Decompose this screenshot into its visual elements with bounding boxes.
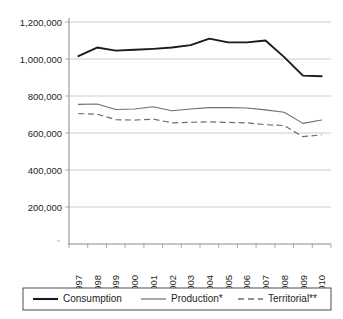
series-line-production (78, 104, 321, 123)
legend-label-consumption: Consumption (63, 293, 122, 304)
x-tick-marks (69, 244, 331, 248)
legend-label-territorial: Territorial** (268, 293, 317, 304)
y-axis-labels: 1,200,000 1,000,000 800,000 600,000 400,… (20, 17, 62, 213)
legend-label-production: Production* (171, 293, 223, 304)
y-tick-label-600000: 600,000 (28, 128, 62, 139)
chart-legend: Consumption Production* Territorial** (23, 288, 331, 310)
y-tick-label-200000: 200,000 (28, 202, 62, 213)
chart-container: 1,200,000 1,000,000 800,000 600,000 400,… (0, 0, 343, 319)
y-tick-label-1200000: 1,200,000 (20, 17, 62, 28)
y-tick-label-1000000: 1,000,000 (20, 54, 62, 65)
y-tick-marks (65, 22, 69, 207)
line-chart: 1,200,000 1,000,000 800,000 600,000 400,… (0, 0, 343, 319)
y-tick-label-800000: 800,000 (28, 91, 62, 102)
data-series (78, 39, 321, 137)
y-tick-label-400000: 400,000 (28, 165, 62, 176)
series-line-consumption (78, 39, 321, 77)
axes (69, 18, 331, 245)
scan-artifact (57, 240, 60, 242)
